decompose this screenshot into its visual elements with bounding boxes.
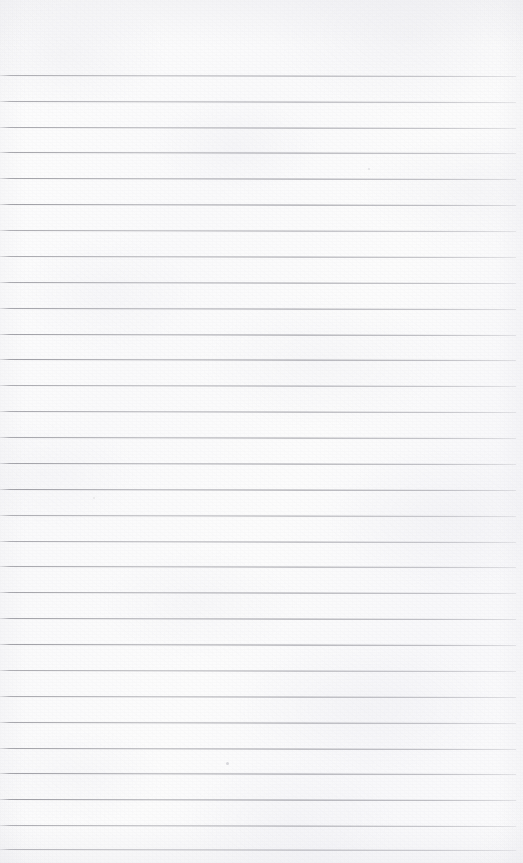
paper-edge-vignette [0,0,523,863]
notebook-page [0,0,523,863]
paper-speck [368,168,370,170]
paper-speck [93,497,95,499]
paper-speck [226,762,229,765]
